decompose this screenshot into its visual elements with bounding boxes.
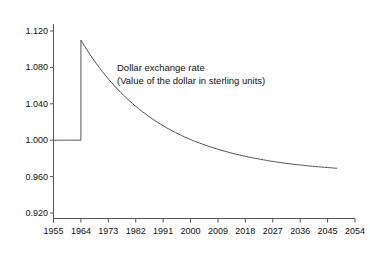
annotation-line-2: (Value of the dollar in sterling units): [117, 75, 265, 88]
x-axis-tick-label: 2054: [338, 226, 370, 236]
y-axis-tick-label: 1.080: [4, 62, 48, 72]
y-axis-tick-label: 0.920: [4, 208, 48, 218]
annotation-line-1: Dollar exchange rate: [117, 62, 265, 75]
x-axis-ticks: [54, 219, 356, 223]
chart-annotation: Dollar exchange rate (Value of the dolla…: [117, 62, 265, 87]
y-axis-tick-label: 0.960: [4, 172, 48, 182]
y-axis-tick-label: 1.120: [4, 26, 48, 36]
axis-lines: [53, 24, 355, 219]
y-axis-tick-label: 1.040: [4, 99, 48, 109]
data-series-line: [54, 40, 337, 168]
y-axis-ticks: [50, 31, 54, 213]
y-axis-tick-label: 1.000: [4, 135, 48, 145]
